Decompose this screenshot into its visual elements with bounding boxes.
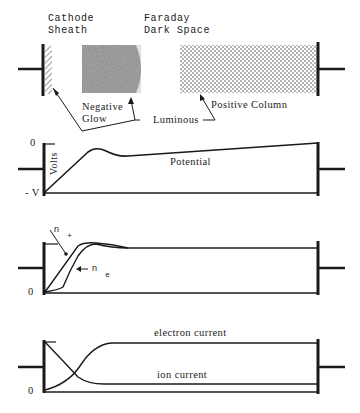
cathode-sheath-hatch <box>45 46 52 94</box>
n-e-label: n e <box>92 262 110 278</box>
negative-glow-label: Negative Glow <box>82 101 123 125</box>
potential-y-bottom-label: - V <box>25 187 40 199</box>
n-e-curve <box>45 244 128 292</box>
n-plus-label: n + <box>54 223 72 239</box>
density-y-zero-label: 0 <box>28 286 34 298</box>
positive-column-label: Positive Column <box>211 99 287 111</box>
current-y-zero-label: 0 <box>28 385 34 397</box>
luminous-label: Luminous <box>153 114 199 126</box>
faraday-dark-space-label: Faraday Dark Space <box>144 13 210 37</box>
cathode-sheath-label: Cathode Sheath <box>48 13 94 37</box>
current-panel <box>18 339 345 394</box>
potential-panel <box>18 142 345 196</box>
electron-current-curve <box>45 343 318 390</box>
n-plus-curve <box>45 243 128 292</box>
negative-glow-region <box>82 45 141 93</box>
glow-discharge-diagram <box>0 0 360 413</box>
potential-y-top-label: 0 <box>30 137 36 149</box>
ion-current-label: ion current <box>157 369 207 381</box>
potential-curve-label: Potential <box>170 156 211 168</box>
volts-axis-label: Volts <box>48 152 59 175</box>
electron-current-label: electron current <box>154 327 227 339</box>
positive-column-region <box>180 45 318 93</box>
